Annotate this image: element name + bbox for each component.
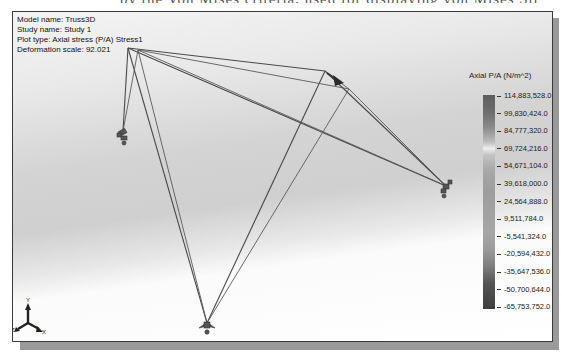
viewport-shadow-right [553, 18, 559, 348]
legend-value: 9,511,784.0 [497, 214, 543, 224]
legend-value: 24,564,888.0 [497, 197, 548, 207]
deformed-truss-members [123, 50, 446, 323]
triad-z-label: Z [13, 327, 15, 333]
legend-value: -65,753,752.0 [497, 302, 550, 312]
legend-value: 54,671,104.0 [497, 161, 548, 171]
legend-value: 39,618,000.0 [497, 179, 548, 189]
legend-value: -5,541,324.0 [497, 232, 546, 242]
force-arrow-icon [327, 73, 344, 86]
triad-x-label: X [42, 329, 46, 335]
legend-value: 99,830,424.0 [497, 109, 548, 119]
undeformed-truss-members [123, 48, 446, 323]
fixed-support-icon-left [117, 128, 127, 145]
legend-title: Axial P/A (N/m^2) [469, 71, 531, 80]
truss-model[interactable]: Y Z X [13, 12, 552, 341]
cropped-caption-text: by the Von Mises criteria, used for disp… [120, 0, 540, 3]
legend-value: -35,647,536.0 [497, 267, 550, 277]
legend-value: -50,700,644.0 [497, 285, 550, 295]
graphics-viewport[interactable]: Model name: Truss3D Study name: Study 1 … [12, 11, 553, 342]
triad-y-label: Y [26, 297, 30, 303]
fixed-support-icon-bottom [199, 322, 215, 334]
axis-triad-icon: Y Z X [13, 297, 46, 335]
legend-value: 69,724,216.0 [497, 144, 548, 154]
legend-value: -20,594,432.0 [497, 249, 550, 259]
viewport-shadow-bottom [20, 342, 559, 350]
legend-value: 114,883,528.0 [497, 91, 551, 101]
legend-colorbar [483, 95, 495, 309]
legend-value: 84,777,320.0 [497, 126, 548, 136]
